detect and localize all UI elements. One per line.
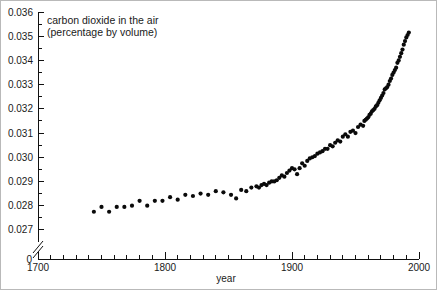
- data-point: [298, 166, 302, 170]
- y-tick-label: 0.031: [8, 128, 33, 139]
- y-tick-label: 0.034: [8, 55, 33, 66]
- plot-title-line2: (percentage by volume): [47, 26, 157, 38]
- data-point: [407, 30, 411, 34]
- data-point: [381, 91, 385, 95]
- data-point: [397, 58, 401, 62]
- data-point: [403, 39, 407, 43]
- y-axis-break-mark-upper: [33, 241, 43, 253]
- data-point: [206, 193, 210, 197]
- y-tick-label: 0.027: [8, 224, 33, 235]
- data-point: [99, 205, 103, 209]
- data-point: [115, 205, 119, 209]
- data-point: [295, 172, 299, 176]
- data-point: [325, 147, 329, 151]
- data-point: [386, 83, 390, 87]
- data-point: [130, 204, 134, 208]
- y-tick-label: 0.029: [8, 176, 33, 187]
- y-tick-label: 0.033: [8, 79, 33, 90]
- data-point: [398, 55, 402, 59]
- data-point: [331, 144, 335, 148]
- y-tick-label: 0.032: [8, 103, 33, 114]
- x-tick-label: 1900: [281, 262, 304, 273]
- data-point: [214, 189, 218, 193]
- data-point: [183, 193, 187, 197]
- data-point: [244, 189, 248, 193]
- data-point: [282, 175, 286, 179]
- data-point: [160, 199, 164, 203]
- data-point: [394, 66, 398, 70]
- data-point: [229, 193, 233, 197]
- data-point: [249, 185, 253, 189]
- y-tick-label: 0.036: [8, 7, 33, 18]
- axes: [33, 12, 419, 259]
- tick-labels: 0.0270.0280.0290.0300.0310.0320.0330.034…: [8, 7, 431, 274]
- data-point: [122, 205, 126, 209]
- data-point: [239, 188, 243, 192]
- data-points: [92, 30, 411, 213]
- data-point: [168, 195, 172, 199]
- y-tick-label: 0.030: [8, 152, 33, 163]
- data-point: [292, 167, 296, 171]
- data-point: [221, 190, 225, 194]
- data-point: [92, 210, 96, 214]
- data-point: [176, 198, 180, 202]
- y-axis-zero-label: 0: [26, 254, 32, 265]
- data-point: [107, 210, 111, 214]
- data-point: [402, 43, 406, 47]
- data-point: [153, 199, 157, 203]
- x-tick-label: 2000: [408, 262, 431, 273]
- x-tick-label: 1800: [154, 262, 177, 273]
- plot-title-line1: carbon dioxide in the air: [47, 14, 159, 26]
- data-point: [399, 51, 403, 55]
- data-point: [400, 47, 404, 51]
- data-point: [346, 135, 350, 139]
- data-point: [191, 194, 195, 198]
- data-point: [198, 191, 202, 195]
- data-point: [303, 164, 307, 168]
- data-point: [389, 76, 393, 80]
- data-point: [353, 131, 357, 135]
- co2-scatter-plot: 0.0270.0280.0290.0300.0310.0320.0330.034…: [1, 1, 437, 290]
- chart-figure: 0.0270.0280.0290.0300.0310.0320.0330.034…: [0, 0, 437, 290]
- y-tick-label: 0.028: [8, 200, 33, 211]
- data-point: [145, 204, 149, 208]
- x-axis-title: year: [216, 273, 236, 284]
- data-point: [338, 139, 342, 143]
- data-point: [361, 124, 365, 128]
- data-point: [138, 199, 142, 203]
- y-tick-label: 0.035: [8, 31, 33, 42]
- data-point: [234, 196, 238, 200]
